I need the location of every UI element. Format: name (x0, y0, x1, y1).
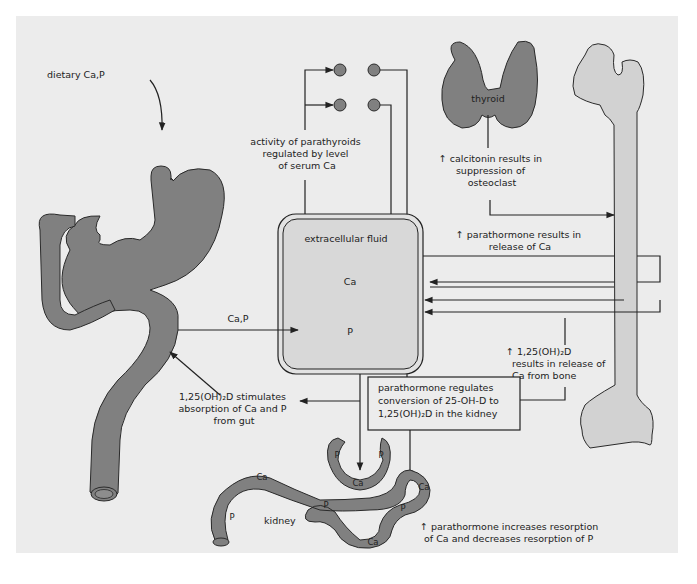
parathyroid-glands (334, 64, 380, 111)
kidney-resorption-label: ↑ parathormone increases resorption of C… (420, 521, 601, 544)
svg-text:parathormone regulates c: parathormone regulates conversion of 25-… (378, 382, 502, 419)
stomach-intestine (39, 166, 224, 501)
vitd-gut-arrow (170, 352, 220, 395)
ecf-ca-label: Ca (344, 276, 356, 287)
thyroid: thyroid (442, 41, 538, 128)
calcitonin-arrow (490, 200, 614, 215)
ecf-label: extracellular fluid (304, 233, 387, 244)
tubule-marker: P (400, 503, 405, 513)
tubule-marker: Ca (352, 478, 363, 488)
tubule-marker: P (334, 450, 339, 460)
gut-transfer-label: Ca,P (227, 313, 248, 324)
dietary-label: dietary Ca,P (47, 69, 105, 80)
pth-kidney-box: parathormone regulates conversion of 25-… (368, 377, 520, 430)
kidney-label: kidney (264, 515, 296, 526)
kidney-tubule: Ca P P P Ca Ca P P Ca (211, 438, 430, 548)
ecf-p-label: P (347, 326, 353, 337)
tubule-marker: P (378, 450, 383, 460)
calcium-regulation-diagram: dietary Ca,P activity of parathyroids re… (0, 0, 697, 584)
thyroid-label: thyroid (471, 93, 505, 104)
parathyroid-activity-label: activity of parathyroids regulated by le… (250, 136, 363, 171)
parathyroid-input-arrow-1 (305, 70, 333, 130)
tubule-marker: Ca (256, 472, 267, 482)
tubule-marker: P (229, 512, 234, 522)
parathormone-release-label: ↑ parathormone results in release of Ca (456, 229, 584, 252)
tubule-marker: Ca (367, 537, 378, 547)
extracellular-fluid-compartment: extracellular fluid Ca P (278, 214, 423, 374)
vitd-gut-label: 1,25(OH)₂D stimulates absorption of Ca a… (178, 391, 289, 426)
tubule-marker: Ca (418, 482, 429, 492)
tubule-marker: P (323, 500, 328, 510)
dietary-arrow (150, 80, 162, 130)
calcitonin-label: ↑ calcitonin results in suppression of o… (439, 153, 545, 188)
vitd-bone-line-bottom (520, 387, 565, 400)
femur-bone (573, 44, 653, 448)
vitd-bone-label: ↑ 1,25(OH)₂D results in release of Ca fr… (506, 346, 608, 381)
